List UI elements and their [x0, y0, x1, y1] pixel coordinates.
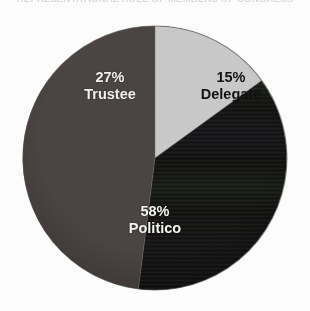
pie-chart [0, 0, 310, 311]
pie-vignette [23, 26, 287, 290]
pie-svg [0, 0, 310, 311]
pie-chart-figure: REPRESENTATIONAL ROLE OF MEMBERS OF CONG… [0, 0, 310, 311]
